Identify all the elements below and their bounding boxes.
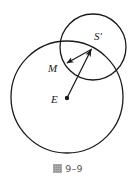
orbit-diagram: S′ M E xyxy=(0,0,136,185)
label-s-prime: S′ xyxy=(94,30,103,42)
figure-caption: 9–9 xyxy=(0,163,136,174)
label-m: M xyxy=(47,62,58,74)
caption-number: 9–9 xyxy=(65,163,83,174)
label-e: E xyxy=(50,93,58,105)
arrow-e-to-s-prime xyxy=(67,50,91,98)
point-e-dot xyxy=(65,96,69,100)
caption-prefix-glyph-icon xyxy=(53,164,62,173)
